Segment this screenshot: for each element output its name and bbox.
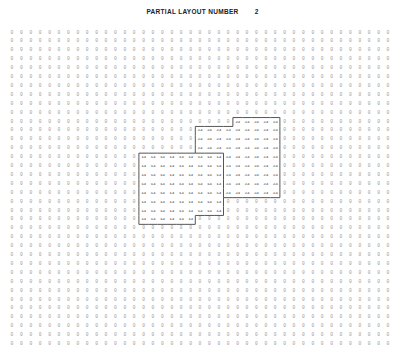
region-borders (0, 0, 405, 355)
layout-grid: 0000000000000000000000000000000000000000… (0, 0, 405, 355)
